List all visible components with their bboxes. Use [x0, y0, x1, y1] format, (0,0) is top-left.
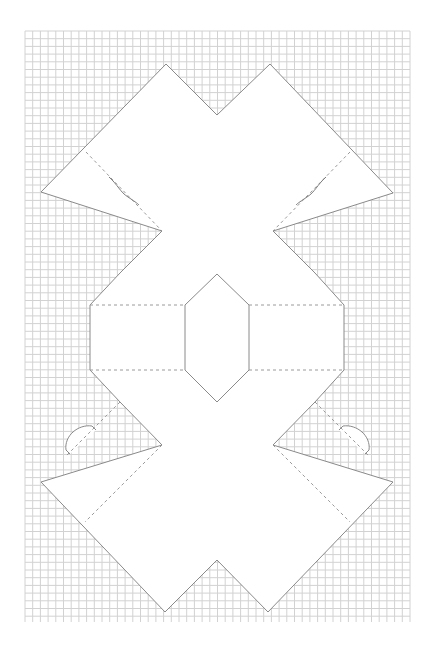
glue-tab — [66, 426, 96, 454]
fold-line — [65, 402, 120, 457]
template-canvas — [0, 0, 430, 650]
fold-line — [315, 402, 370, 457]
glue-tab — [339, 426, 369, 454]
template-outline — [41, 64, 393, 612]
